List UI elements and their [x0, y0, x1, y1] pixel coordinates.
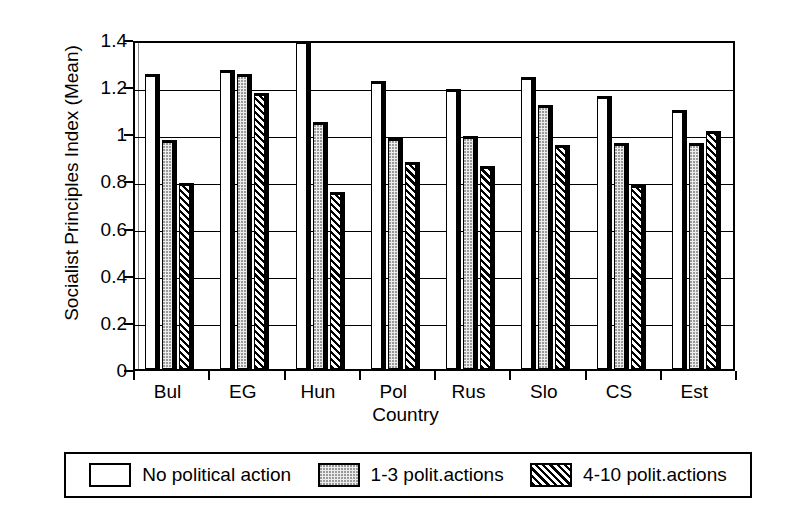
y-axis-tick-mark	[124, 229, 133, 231]
bar-bul-series0	[145, 74, 160, 369]
bar-group	[135, 43, 210, 369]
bar-cs-series1	[614, 143, 629, 369]
bar-eg-series2	[254, 93, 269, 369]
bar-group	[587, 43, 662, 369]
y-axis-tick-label: 0.4	[67, 267, 127, 286]
y-axis-tick-mark	[124, 40, 133, 42]
x-axis-tick-mark	[660, 371, 662, 380]
bar-eg-series1	[237, 74, 252, 369]
bar-bul-series2	[179, 183, 194, 369]
chart-legend: No political action1-3 polit.actions4-10…	[64, 452, 752, 498]
bar-group	[286, 43, 361, 369]
bar-bul-series1	[162, 140, 177, 369]
legend-swatch-series1	[318, 463, 360, 487]
y-axis-tick-mark	[124, 87, 133, 89]
bar-eg-series0	[220, 70, 235, 369]
bar-hun-series0	[296, 41, 311, 369]
bar-cs-series2	[631, 185, 646, 369]
x-axis-tick-mark	[284, 371, 286, 380]
bar-group	[662, 43, 737, 369]
y-axis-tick-mark	[124, 181, 133, 183]
bar-group	[361, 43, 436, 369]
y-axis-tick-mark	[124, 134, 133, 136]
bar-cs-series0	[597, 96, 612, 369]
x-axis-tick-mark	[735, 371, 737, 380]
bar-slo-series0	[521, 77, 536, 369]
bar-hun-series1	[313, 122, 328, 370]
y-axis-tick-label: 1.2	[67, 78, 127, 97]
legend-entry-series0[interactable]: No political action	[89, 463, 291, 487]
x-axis-title: Country	[0, 404, 811, 426]
bar-slo-series2	[555, 145, 570, 369]
x-axis-tick-mark	[585, 371, 587, 380]
bar-group	[210, 43, 285, 369]
y-axis-tick-label: 0.8	[67, 172, 127, 191]
bar-group	[511, 43, 586, 369]
y-axis-tick-mark	[124, 370, 133, 372]
y-axis-tick-mark	[124, 276, 133, 278]
x-axis-tick-mark	[133, 371, 135, 380]
y-axis-tick-label: 0.6	[67, 220, 127, 239]
bar-est-series0	[672, 110, 687, 369]
legend-label-series2: 4-10 polit.actions	[583, 464, 727, 486]
legend-swatch-series0	[89, 463, 131, 487]
bar-series-container	[135, 43, 733, 369]
bar-est-series2	[706, 131, 721, 369]
x-axis-tick-mark	[359, 371, 361, 380]
bar-slo-series1	[538, 105, 553, 369]
y-axis-tick-mark	[124, 323, 133, 325]
bar-group	[436, 43, 511, 369]
y-axis-tick-label: 1.4	[67, 31, 127, 50]
plot-area	[133, 41, 735, 371]
y-axis-tick-label: 0.2	[67, 314, 127, 333]
x-axis-tick-mark	[208, 371, 210, 380]
legend-swatch-series2	[530, 463, 572, 487]
bar-pol-series0	[371, 81, 386, 369]
bar-rus-series1	[463, 136, 478, 369]
chart-figure: Socialist Principles Index (Mean) 00.20.…	[0, 0, 811, 520]
bar-pol-series2	[405, 162, 420, 369]
y-axis-tick-label: 0	[67, 361, 127, 380]
legend-entry-series1[interactable]: 1-3 polit.actions	[318, 463, 504, 487]
bar-est-series1	[689, 143, 704, 369]
bar-rus-series2	[480, 166, 495, 369]
legend-label-series0: No political action	[142, 464, 291, 486]
x-axis-tick-mark	[434, 371, 436, 380]
bar-rus-series0	[446, 89, 461, 370]
legend-label-series1: 1-3 polit.actions	[371, 464, 504, 486]
y-axis-tick-label: 1	[67, 125, 127, 144]
x-axis-tick-label-est: Est	[649, 381, 739, 403]
legend-entry-series2[interactable]: 4-10 polit.actions	[530, 463, 727, 487]
bar-hun-series2	[330, 192, 345, 369]
x-axis-tick-mark	[509, 371, 511, 380]
bar-pol-series1	[388, 138, 403, 369]
